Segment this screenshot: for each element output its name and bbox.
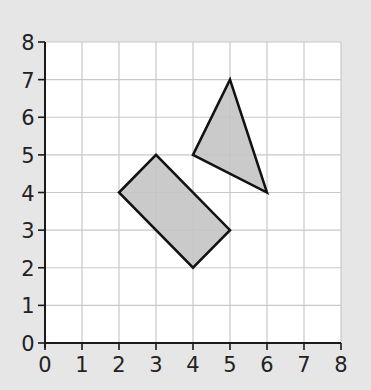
y-tick-label: 6	[21, 106, 34, 130]
x-tick-label: 8	[334, 353, 347, 377]
x-tick-label: 3	[149, 353, 162, 377]
y-axis-tick-labels: 012345678	[21, 31, 34, 356]
x-tick-label: 2	[112, 353, 125, 377]
x-tick-label: 6	[260, 353, 273, 377]
y-tick-label: 7	[21, 69, 34, 93]
y-tick-label: 2	[21, 257, 34, 281]
x-tick-label: 4	[186, 353, 199, 377]
y-tick-label: 5	[21, 144, 34, 168]
y-tick-label: 3	[21, 219, 34, 243]
x-tick-label: 1	[75, 353, 88, 377]
x-tick-label: 7	[297, 353, 310, 377]
y-tick-label: 4	[21, 182, 34, 206]
y-tick-label: 0	[21, 332, 34, 356]
y-tick-label: 8	[21, 31, 34, 55]
y-tick-label: 1	[21, 294, 34, 318]
x-tick-label: 0	[38, 353, 51, 377]
coordinate-grid-diagram: 012345678 012345678	[0, 0, 371, 390]
x-axis-tick-labels: 012345678	[38, 353, 347, 377]
x-tick-label: 5	[223, 353, 236, 377]
